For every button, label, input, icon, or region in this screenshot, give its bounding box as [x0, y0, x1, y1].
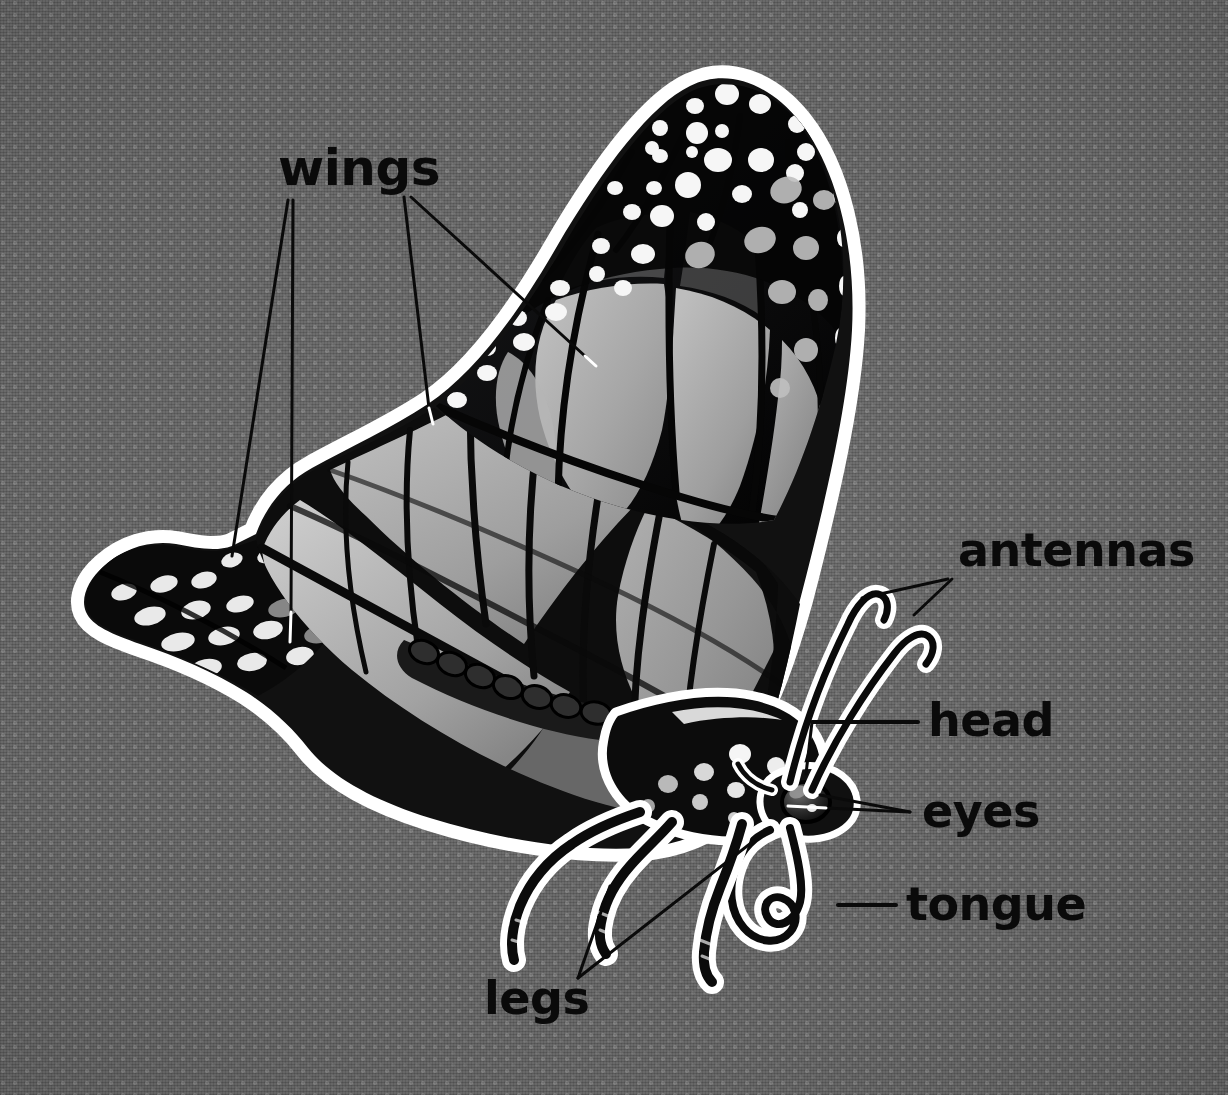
leader-wings-2: [291, 200, 293, 612]
leader-wings-2b: [290, 612, 291, 642]
diagram-canvas: wings antennas head eyes tongue legs: [0, 0, 1228, 1095]
butterfly-illustration: wings antennas head eyes tongue legs: [0, 0, 1228, 1095]
label-legs: legs: [484, 971, 589, 1025]
label-head: head: [928, 693, 1054, 747]
label-eyes: eyes: [922, 784, 1040, 838]
label-antennas: antennas: [958, 523, 1195, 577]
label-tongue: tongue: [906, 877, 1086, 931]
label-wings: wings: [278, 139, 440, 197]
leader-wings-3: [404, 197, 429, 408]
leader-eyes-2b: [788, 806, 826, 808]
